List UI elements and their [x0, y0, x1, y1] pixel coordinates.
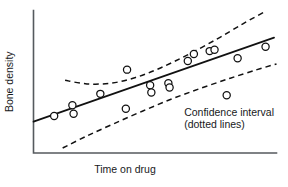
data-point — [69, 102, 76, 109]
data-point — [148, 89, 155, 96]
data-point — [211, 46, 218, 53]
y-axis-label: Bone density — [3, 51, 15, 112]
data-point — [147, 82, 154, 89]
data-point — [122, 105, 129, 112]
data-point — [123, 66, 130, 73]
confidence-interval-annotation-line1: Confidence interval — [184, 106, 274, 118]
annotation-group: Confidence interval (dotted lines) — [184, 106, 274, 130]
scatter-plot: Confidence interval (dotted lines) Bone … — [0, 0, 288, 187]
data-point — [184, 57, 191, 64]
data-point — [97, 90, 104, 97]
data-point — [223, 92, 230, 99]
chart-figure: Confidence interval (dotted lines) Bone … — [0, 0, 288, 187]
data-point — [234, 55, 241, 62]
x-axis-label: Time on drug — [94, 163, 156, 175]
data-point — [262, 43, 269, 50]
data-point — [190, 50, 197, 57]
axis-labels-group: Bone density Time on drug — [3, 51, 156, 175]
data-point — [51, 112, 58, 119]
data-point — [70, 110, 77, 117]
confidence-interval-annotation-line2: (dotted lines) — [184, 118, 245, 130]
data-point — [166, 84, 173, 91]
upper-confidence-band — [65, 12, 264, 84]
